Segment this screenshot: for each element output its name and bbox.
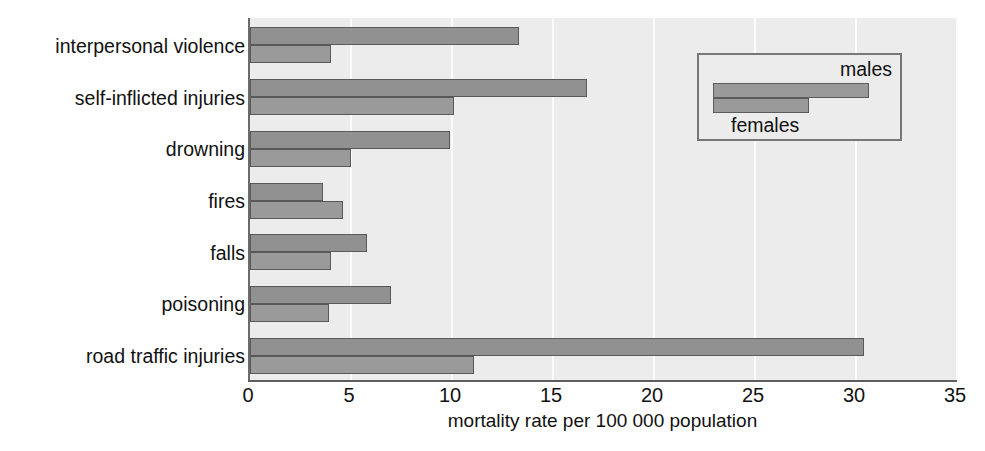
legend-swatch-males (713, 83, 869, 98)
x-tick-label: 15 (540, 384, 562, 406)
bar-male (250, 234, 367, 252)
bar-female (250, 45, 331, 63)
category-label: drowning (166, 138, 245, 160)
x-tick-label: 30 (843, 384, 865, 406)
legend-label-females: females (731, 115, 799, 136)
x-tick-label: 20 (641, 384, 663, 406)
category-label: interpersonal violence (55, 35, 245, 57)
bar-female (250, 304, 329, 322)
x-tick-label: 35 (944, 384, 966, 406)
mortality-bar-chart: interpersonal violenceself-inflicted inj… (0, 0, 985, 451)
legend-label-males: males (840, 59, 892, 80)
bar-male (250, 338, 864, 356)
legend-swatch-females (713, 98, 809, 113)
bar-female (250, 149, 351, 167)
category-label: self-inflicted injuries (75, 87, 245, 109)
bar-female (250, 97, 454, 115)
x-axis-line (248, 380, 957, 382)
x-axis-title: mortality rate per 100 000 population (248, 410, 957, 432)
bar-male (250, 286, 391, 304)
bar-male (250, 131, 450, 149)
bar-male (250, 27, 519, 45)
category-label: fires (208, 190, 245, 212)
bar-male (250, 183, 323, 201)
category-label: road traffic injuries (86, 345, 245, 367)
legend: males females (697, 53, 902, 141)
x-tick-label: 5 (343, 384, 354, 406)
bar-female (250, 252, 331, 270)
category-label: falls (210, 242, 245, 264)
x-tick-label: 0 (242, 384, 253, 406)
category-label: poisoning (162, 293, 245, 315)
x-tick-label: 25 (742, 384, 764, 406)
bar-female (250, 201, 343, 219)
bar-male (250, 79, 587, 97)
bar-female (250, 356, 474, 374)
x-tick-label: 10 (439, 384, 461, 406)
